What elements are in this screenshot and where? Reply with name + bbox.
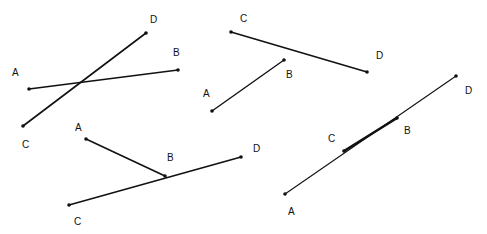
segment-ab (86, 139, 165, 176)
segment-cd (231, 32, 367, 72)
point-label-c: C (328, 133, 335, 144)
point-label-a: A (12, 67, 19, 78)
point-label-c: C (22, 139, 29, 150)
point-label-b: B (167, 152, 174, 163)
point-label-d: D (376, 50, 383, 61)
point-b (395, 116, 399, 120)
segment-cd (23, 33, 146, 126)
point-b (282, 58, 286, 62)
point-label-c: C (74, 216, 81, 227)
segment-ab (29, 70, 178, 89)
figure-touching-segments: ABCD (67, 122, 260, 227)
point-d (239, 155, 243, 159)
point-label-d: D (150, 14, 157, 25)
segment-cb (344, 118, 397, 151)
point-label-b: B (173, 47, 180, 58)
point-c (342, 149, 346, 153)
point-a (283, 192, 287, 196)
point-a (84, 137, 88, 141)
point-d (454, 74, 458, 78)
point-c (21, 124, 25, 128)
figure-overlapping-segments: ADCB (283, 74, 472, 217)
point-d (365, 70, 369, 74)
point-a (27, 87, 31, 91)
point-label-a: A (75, 122, 82, 133)
point-label-a: A (203, 88, 210, 99)
figure-non-intersecting-segments: CDAB (203, 13, 383, 113)
diagram-svg: ABCDCDABABCDADCB (0, 0, 487, 234)
point-label-b: B (404, 125, 411, 136)
point-label-b: B (286, 69, 293, 80)
segment-cd (69, 157, 241, 205)
point-b (176, 68, 180, 72)
point-label-c: C (240, 13, 247, 24)
segment-diagram: ABCDCDABABCDADCB (0, 0, 487, 234)
point-d (144, 31, 148, 35)
point-label-d: D (253, 143, 260, 154)
point-b (163, 174, 167, 178)
point-label-d: D (465, 85, 472, 96)
point-label-a: A (288, 206, 295, 217)
point-c (229, 30, 233, 34)
segment-ab (212, 60, 284, 111)
point-c (67, 203, 71, 207)
point-a (210, 109, 214, 113)
figure-intersecting-segments: ABCD (12, 14, 180, 150)
